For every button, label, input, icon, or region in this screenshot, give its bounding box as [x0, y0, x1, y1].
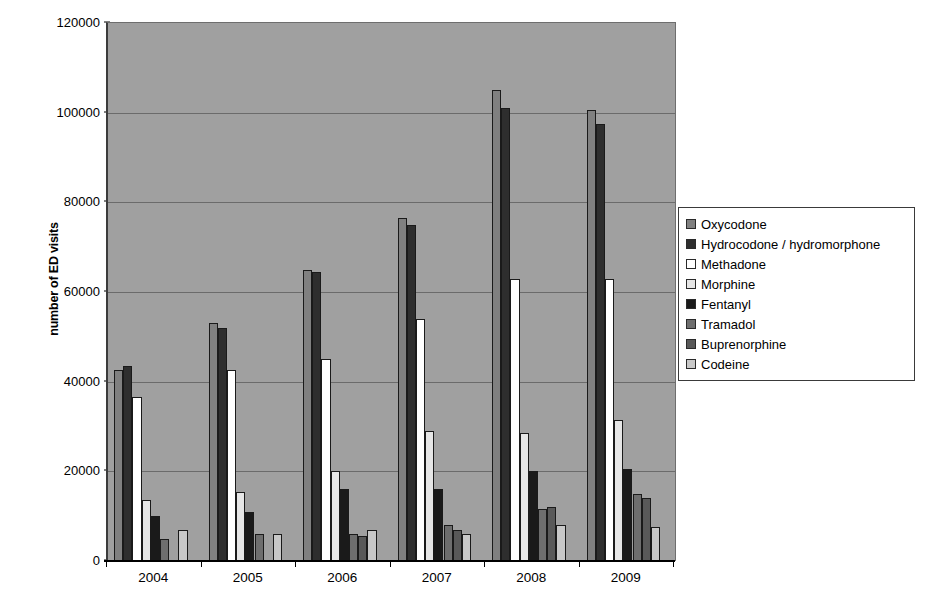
- x-tick-label: 2005: [208, 570, 288, 585]
- x-tick-mark: [673, 561, 674, 567]
- x-tick-label: 2007: [397, 570, 477, 585]
- bars-layer: [108, 23, 675, 561]
- chart-legend: OxycodoneHydrocodone / hydromorphoneMeth…: [678, 207, 915, 381]
- legend-label: Codeine: [701, 358, 749, 371]
- bar: [520, 433, 529, 561]
- bar: [367, 530, 376, 561]
- bar: [349, 534, 358, 561]
- bar-chart: number of ED visits 02000040000600008000…: [0, 0, 927, 607]
- legend-item: Morphine: [684, 274, 909, 294]
- bar: [303, 270, 312, 561]
- legend-item: Methadone: [684, 254, 909, 274]
- bar: [651, 527, 660, 561]
- bar-group: [108, 23, 203, 561]
- legend-swatch-icon: [686, 279, 696, 289]
- bar: [501, 108, 510, 561]
- y-tick-label: 120000: [30, 15, 100, 30]
- bar: [462, 534, 471, 561]
- bar: [255, 534, 264, 561]
- bar: [510, 279, 519, 561]
- legend-label: Morphine: [701, 278, 755, 291]
- y-tick-label: 20000: [30, 463, 100, 478]
- bar-group: [581, 23, 676, 561]
- bar: [114, 370, 123, 561]
- bar: [273, 534, 282, 561]
- bar: [444, 525, 453, 561]
- x-tick-label: 2009: [586, 570, 666, 585]
- legend-swatch-icon: [686, 299, 696, 309]
- bar: [556, 525, 565, 561]
- bar: [614, 420, 623, 561]
- bar: [321, 359, 330, 561]
- legend-item: Fentanyl: [684, 294, 909, 314]
- y-tick-label: 100000: [30, 104, 100, 119]
- bar: [209, 323, 218, 561]
- bar: [331, 471, 340, 561]
- legend-label: Hydrocodone / hydromorphone: [701, 238, 880, 251]
- bar: [587, 110, 596, 561]
- legend-label: Oxycodone: [701, 218, 767, 231]
- bar: [623, 469, 632, 561]
- x-tick-mark: [579, 561, 580, 567]
- x-tick-mark: [390, 561, 391, 567]
- legend-swatch-icon: [686, 359, 696, 369]
- x-tick-mark: [201, 561, 202, 567]
- legend-swatch-icon: [686, 319, 696, 329]
- bar: [160, 539, 169, 561]
- legend-label: Fentanyl: [701, 298, 751, 311]
- y-tick-label: 0: [30, 553, 100, 568]
- legend-label: Methadone: [701, 258, 766, 271]
- bar: [142, 500, 151, 561]
- bar: [358, 536, 367, 561]
- bar: [132, 397, 141, 561]
- bar: [312, 272, 321, 561]
- x-tick-mark: [106, 561, 107, 567]
- legend-swatch-icon: [686, 259, 696, 269]
- legend-item: Hydrocodone / hydromorphone: [684, 234, 909, 254]
- legend-label: Tramadol: [701, 318, 755, 331]
- legend-swatch-icon: [686, 339, 696, 349]
- bar: [642, 498, 651, 561]
- y-tick-label: 80000: [30, 194, 100, 209]
- legend-swatch-icon: [686, 239, 696, 249]
- bar: [245, 512, 254, 561]
- bar: [218, 328, 227, 561]
- bar: [547, 507, 556, 561]
- plot-area: [106, 22, 676, 561]
- bar: [596, 124, 605, 561]
- bar: [492, 90, 501, 561]
- bar: [425, 431, 434, 561]
- bar-group: [392, 23, 487, 561]
- y-axis-ticks: 020000400006000080000100000120000: [26, 0, 100, 607]
- bar-group: [203, 23, 298, 561]
- bar-group: [486, 23, 581, 561]
- bar: [151, 516, 160, 561]
- bar: [605, 279, 614, 561]
- x-tick-mark: [484, 561, 485, 567]
- legend-swatch-icon: [686, 219, 696, 229]
- bar: [227, 370, 236, 561]
- bar: [236, 492, 245, 561]
- bar: [529, 471, 538, 561]
- x-tick-label: 2004: [113, 570, 193, 585]
- y-tick-label: 60000: [30, 284, 100, 299]
- legend-label: Buprenorphine: [701, 338, 786, 351]
- x-tick-mark: [295, 561, 296, 567]
- bar: [123, 366, 132, 561]
- bar: [178, 530, 187, 561]
- bar: [453, 530, 462, 561]
- bar: [538, 509, 547, 561]
- legend-item: Codeine: [684, 354, 909, 374]
- bar: [416, 319, 425, 561]
- legend-item: Buprenorphine: [684, 334, 909, 354]
- x-tick-label: 2006: [302, 570, 382, 585]
- bar: [398, 218, 407, 561]
- x-tick-label: 2008: [491, 570, 571, 585]
- bar: [340, 489, 349, 561]
- legend-item: Oxycodone: [684, 214, 909, 234]
- bar: [633, 494, 642, 561]
- legend-item: Tramadol: [684, 314, 909, 334]
- bar: [434, 489, 443, 561]
- bar: [407, 225, 416, 561]
- y-tick-label: 40000: [30, 373, 100, 388]
